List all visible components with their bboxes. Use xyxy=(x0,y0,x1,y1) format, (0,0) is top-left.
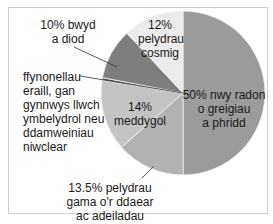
label-cosmic: 12%pelydraucosmig xyxy=(138,18,182,60)
label-food: 10% bwyda diod xyxy=(38,18,98,46)
label-medical: 14%meddygol xyxy=(112,100,168,128)
label-gamma: 13.5% pelydraugama o'r ddaearac adeilada… xyxy=(60,181,160,223)
leader-line-gamma xyxy=(142,166,154,178)
label-other: ffynonellaueraill, gangynnwys llwch ymbe… xyxy=(23,70,104,154)
label-radon: 50% nwy radono greigiaua phridd xyxy=(180,88,268,130)
